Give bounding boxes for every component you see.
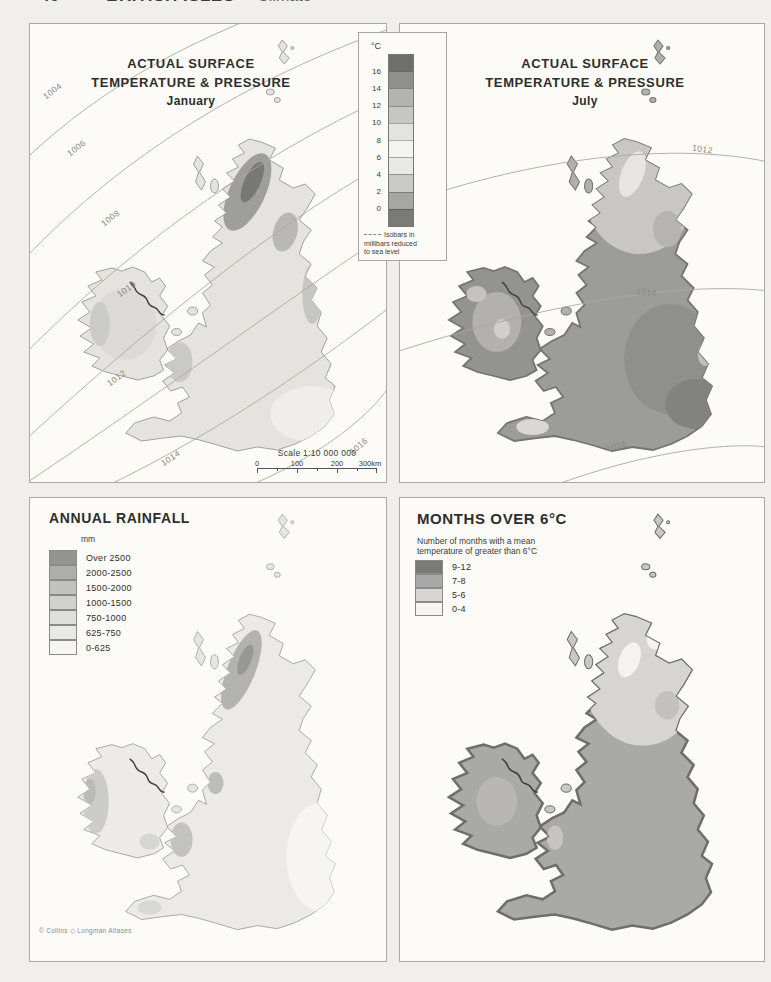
temperature-ramp [388,54,414,227]
temperature-legend: °C 16 14 12 10 8 6 4 2 0 Isobars in mill… [358,32,447,261]
copyright-notice: © Collins ◇ Longman Atlases [39,927,132,935]
legend-row: 625-750 [49,625,132,640]
months-subtitle: Number of months with a mean temperature… [417,536,537,556]
temp-band [389,209,413,226]
july-title: ACTUAL SURFACE TEMPERATURE & PRESSURE Ju… [455,54,715,111]
legend-swatch [415,588,443,602]
scale-ruler [257,468,377,474]
legend-swatch [49,565,77,580]
temp-band [389,71,413,88]
rainfall-unit: mm [81,534,95,544]
page-subtitle: Climate [257,0,311,4]
temp-band [389,140,413,157]
legend-row: 9-12 [415,560,471,574]
temp-band [389,174,413,191]
legend-swatch [415,602,443,616]
months-shading-ie [476,777,517,826]
legend-swatch [49,595,77,610]
panel-july-temperature-pressure: ACTUAL SURFACE TEMPERATURE & PRESSURE Ju… [399,23,765,483]
legend-row: 750-1000 [49,610,132,625]
legend-swatch [415,574,443,588]
legend-row: Over 2500 [49,550,132,565]
months-title: MONTHS OVER 6°C [417,510,567,527]
scale-label: Scale 1:10 000 000 [252,448,382,458]
legend-row: 5-6 [415,588,471,602]
legend-row: 1500-2000 [49,580,132,595]
panel-months-over-6c: MONTHS OVER 6°C Number of months with a … [399,497,765,962]
temp-band [389,192,413,209]
page-number: 46 [40,0,59,5]
isobar-line-sample [364,234,381,235]
months-legend: 9-12 7-8 5-6 0-4 [415,560,471,616]
legend-row: 2000-2500 [49,565,132,580]
temperature-unit: °C [371,41,381,51]
page-header: 46BRITISH ISLESClimate [0,0,771,9]
isobar-caption: Isobars in millibars reduced to sea leve… [364,231,417,257]
panel-january-temperature-pressure: ACTUAL SURFACE TEMPERATURE & PRESSURE Ja… [29,23,387,483]
panel-annual-rainfall: ANNUAL RAINFALL mm Over 2500 2000-2500 1… [29,497,387,962]
temp-band [389,55,413,71]
legend-row: 7-8 [415,574,471,588]
legend-swatch [49,550,77,565]
legend-row: 0-625 [49,640,132,655]
isobar-label-1014: 1014 [636,286,658,298]
legend-swatch [49,625,77,640]
january-title: ACTUAL SURFACE TEMPERATURE & PRESSURE Ja… [61,54,321,111]
scale-bar: Scale 1:10 000 000 0 100 200 300km [252,448,382,474]
temp-band [389,157,413,174]
legend-swatch [49,640,77,655]
temp-band [389,88,413,105]
rainfall-legend: Over 2500 2000-2500 1500-2000 1000-1500 … [49,550,132,655]
legend-row: 1000-1500 [49,595,132,610]
temp-band [389,106,413,123]
page-title: BRITISH ISLES [107,0,235,5]
scale-tick-labels: 0 100 200 300km [252,459,382,468]
temp-band [389,123,413,140]
legend-swatch [49,610,77,625]
legend-swatch [49,580,77,595]
rainfall-title: ANNUAL RAINFALL [49,510,190,526]
legend-row: 0-4 [415,602,471,616]
legend-swatch [415,560,443,574]
temperature-ticks: 16 14 12 10 8 6 4 2 0 [359,54,385,225]
